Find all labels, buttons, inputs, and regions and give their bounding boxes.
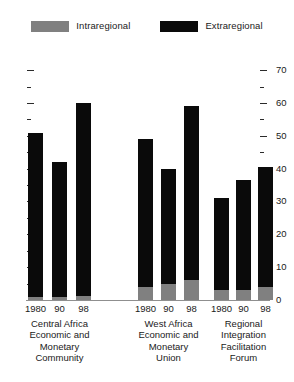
x-axis-group-title: West Africa Economic and Monetary Union: [134, 318, 204, 364]
bar-1-90: [161, 169, 176, 300]
plot-area: 010203040506070: [18, 57, 276, 300]
x-axis-year-label-90: 90: [238, 303, 249, 315]
x-axis-year-label-1980: 1980: [25, 303, 46, 315]
bar-segment-extraregional: [76, 103, 91, 296]
bars-layer: [18, 57, 276, 300]
x-axis-year-label-98: 98: [78, 303, 89, 315]
y-axis-label-0: 0: [276, 295, 281, 305]
bar-2-90: [236, 180, 251, 300]
bar-segment-intraregional: [214, 290, 229, 300]
y-axis-label-50: 50: [276, 131, 287, 141]
bar-2-98: [258, 167, 273, 300]
y-axis-label-70: 70: [276, 65, 287, 75]
y-axis-label-10: 10: [276, 262, 287, 272]
bar-segment-intraregional: [138, 287, 153, 300]
stacked-bar-chart: Intraregional Extraregional 010203040506…: [0, 0, 294, 382]
legend-item-extraregional: Extraregional: [160, 21, 262, 32]
y-axis-label-20: 20: [276, 229, 287, 239]
x-axis: 19809098Central Africa Economic and Mone…: [18, 303, 276, 382]
bar-0-90: [52, 162, 67, 300]
x-axis-year-label-90: 90: [54, 303, 65, 315]
x-axis-year-label-98: 98: [260, 303, 271, 315]
legend-swatch-intraregional: [31, 21, 69, 32]
x-axis-group-title: Central Africa Economic and Monetary Com…: [21, 318, 99, 364]
bar-segment-extraregional: [258, 167, 273, 287]
bar-segment-extraregional: [236, 180, 251, 289]
bar-segment-intraregional: [236, 290, 251, 301]
x-axis-year-labels: 19809098: [134, 303, 204, 316]
bar-segment-intraregional: [184, 280, 199, 300]
bar-segment-intraregional: [161, 284, 176, 300]
x-axis-group-title: Regional Integration Facilitation Forum: [213, 318, 275, 364]
bar-0-98: [76, 103, 91, 300]
bar-segment-extraregional: [161, 169, 176, 284]
legend-item-intraregional: Intraregional: [31, 21, 130, 32]
bar-segment-extraregional: [52, 162, 67, 297]
bar-segment-extraregional: [138, 139, 153, 287]
x-axis-year-labels: 19809098: [213, 303, 275, 316]
x-axis-year-label-98: 98: [186, 303, 197, 315]
bar-segment-extraregional: [214, 198, 229, 290]
x-axis-group-2: 19809098Regional Integration Facilitatio…: [213, 303, 275, 364]
bar-1-98: [184, 106, 199, 300]
bar-segment-extraregional: [28, 133, 43, 297]
y-axis-label-40: 40: [276, 164, 287, 174]
legend-label-intraregional: Intraregional: [76, 21, 130, 31]
bar-segment-extraregional: [184, 106, 199, 280]
legend-label-extraregional: Extraregional: [205, 21, 262, 31]
x-axis-year-label-1980: 1980: [135, 303, 156, 315]
y-axis-label-30: 30: [276, 196, 287, 206]
bar-1-1980: [138, 139, 153, 300]
chart-legend: Intraregional Extraregional: [0, 14, 294, 38]
x-axis-group-1: 19809098West Africa Economic and Monetar…: [134, 303, 204, 364]
x-axis-year-labels: 19809098: [21, 303, 99, 316]
x-axis-baseline: [26, 300, 270, 301]
legend-swatch-extraregional: [160, 21, 198, 32]
bar-2-1980: [214, 198, 229, 300]
bar-0-1980: [28, 133, 43, 300]
x-axis-year-label-1980: 1980: [211, 303, 232, 315]
x-axis-year-label-90: 90: [163, 303, 174, 315]
y-axis-label-60: 60: [276, 98, 287, 108]
bar-segment-intraregional: [258, 287, 273, 300]
x-axis-group-0: 19809098Central Africa Economic and Mone…: [21, 303, 99, 364]
